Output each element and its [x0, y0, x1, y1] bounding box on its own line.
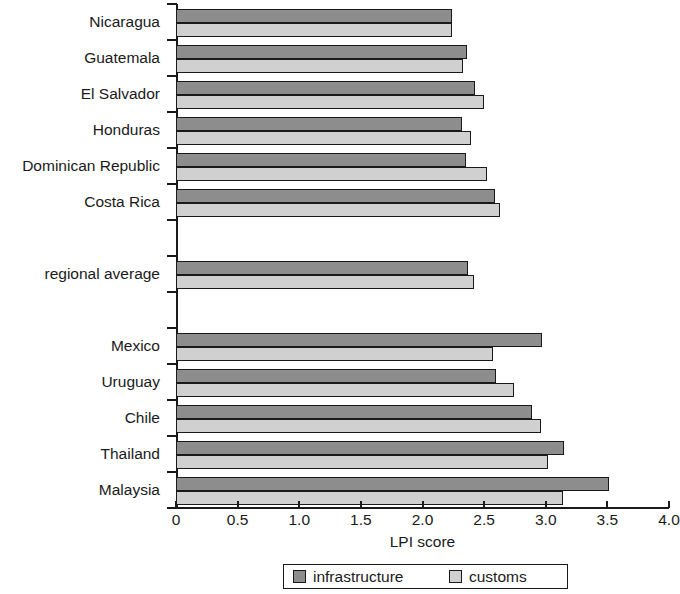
y-axis-tick — [167, 147, 177, 149]
x-axis-tick — [237, 501, 239, 508]
x-axis-tick-label: 3.0 — [535, 512, 557, 528]
infrastructure-swatch-icon — [293, 570, 306, 583]
category-label-chile: Chile — [125, 410, 160, 426]
bar-customs-guatemala — [176, 59, 463, 73]
legend-item-infrastructure: infrastructure — [293, 569, 403, 585]
category-label-mexico: Mexico — [111, 338, 160, 354]
plot-area: NicaraguaGuatemalaEl SalvadorHondurasDom… — [0, 0, 680, 520]
x-axis-tick-label: 0.5 — [227, 512, 249, 528]
bar-customs-malaysia — [176, 491, 563, 505]
legend-label-infrastructure: infrastructure — [313, 569, 403, 585]
x-axis-tick — [606, 501, 608, 508]
bar-infrastructure-uruguay — [176, 369, 496, 383]
legend-item-customs: customs — [449, 569, 527, 585]
x-axis-tick-label: 1.5 — [350, 512, 372, 528]
category-label-regional-average: regional average — [45, 266, 160, 282]
x-axis-tick-label: 2.5 — [473, 512, 495, 528]
category-label-el-salvador: El Salvador — [81, 86, 160, 102]
x-axis-tick-label: 1.0 — [288, 512, 310, 528]
legend-label-customs: customs — [469, 569, 527, 585]
category-label-dominican-republic: Dominican Republic — [22, 158, 160, 174]
y-axis-tick — [167, 291, 177, 293]
x-axis-tick-label: 4.0 — [658, 512, 680, 528]
x-axis-tick-label: 0 — [172, 512, 181, 528]
category-label-uruguay: Uruguay — [101, 374, 160, 390]
x-axis-tick — [545, 501, 547, 508]
y-axis-tick — [167, 183, 177, 185]
category-label-nicaragua: Nicaragua — [89, 14, 160, 30]
x-axis-tick — [298, 501, 300, 508]
y-axis-tick — [167, 75, 177, 77]
bar-infrastructure-honduras — [176, 117, 462, 131]
bar-customs-chile — [176, 419, 541, 433]
x-axis-tick — [668, 501, 670, 508]
category-label-malaysia: Malaysia — [99, 482, 160, 498]
y-axis-tick — [167, 327, 177, 329]
y-axis-tick — [167, 255, 177, 257]
bar-infrastructure-el-salvador — [176, 81, 475, 95]
bar-customs-costa-rica — [176, 203, 500, 217]
y-axis-tick — [167, 3, 177, 5]
bar-customs-honduras — [176, 131, 471, 145]
y-axis-tick — [167, 39, 177, 41]
bar-customs-mexico — [176, 347, 493, 361]
bar-customs-thailand — [176, 455, 548, 469]
y-axis-tick — [167, 399, 177, 401]
y-axis-tick — [167, 111, 177, 113]
x-axis-tick — [175, 501, 177, 508]
bar-infrastructure-chile — [176, 405, 532, 419]
x-axis-tick — [360, 501, 362, 508]
customs-swatch-icon — [449, 570, 462, 583]
bar-customs-uruguay — [176, 383, 514, 397]
bar-infrastructure-nicaragua — [176, 9, 452, 23]
x-axis-tick-label: 2.0 — [412, 512, 434, 528]
bar-infrastructure-dominican-republic — [176, 153, 466, 167]
bar-customs-nicaragua — [176, 23, 452, 37]
category-label-thailand: Thailand — [101, 446, 160, 462]
x-axis-tick — [483, 501, 485, 508]
bar-infrastructure-costa-rica — [176, 189, 495, 203]
category-label-costa-rica: Costa Rica — [84, 194, 160, 210]
bar-infrastructure-malaysia — [176, 477, 609, 491]
y-axis-tick — [167, 435, 177, 437]
x-axis-tick-label: 3.5 — [597, 512, 619, 528]
lpi-score-bar-chart: NicaraguaGuatemalaEl SalvadorHondurasDom… — [0, 0, 680, 594]
bar-customs-dominican-republic — [176, 167, 487, 181]
chart-legend: infrastructure customs — [283, 564, 568, 589]
y-axis-tick — [167, 219, 177, 221]
y-axis-tick — [167, 363, 177, 365]
bar-infrastructure-guatemala — [176, 45, 467, 59]
bar-infrastructure-regional-average — [176, 261, 468, 275]
x-axis-title: LPI score — [176, 534, 669, 550]
bar-infrastructure-mexico — [176, 333, 542, 347]
bar-customs-el-salvador — [176, 95, 484, 109]
bar-infrastructure-thailand — [176, 441, 564, 455]
category-label-guatemala: Guatemala — [84, 50, 160, 66]
y-axis-tick — [167, 471, 177, 473]
category-axis-labels: NicaraguaGuatemalaEl SalvadorHondurasDom… — [0, 0, 168, 508]
bar-customs-regional-average — [176, 275, 474, 289]
x-axis-tick — [422, 501, 424, 508]
category-label-honduras: Honduras — [93, 122, 160, 138]
